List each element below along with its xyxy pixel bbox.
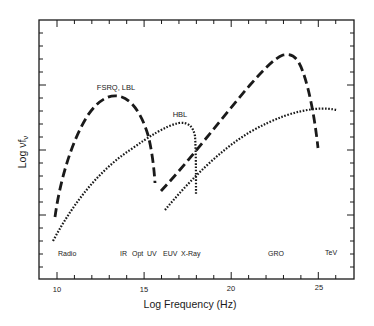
hbl-inverse-compton-curve <box>165 109 337 210</box>
band-label-radio: Radio <box>58 250 76 257</box>
hbl-synchrotron-curve <box>53 123 196 241</box>
band-label-xray: X-Ray <box>181 250 201 258</box>
y-axis-title: Log νfν <box>16 136 30 169</box>
band-label-tev: TeV <box>325 249 337 256</box>
x-tick-label-25: 25 <box>315 283 323 292</box>
y-axis-title-main: Log νf <box>16 140 28 169</box>
band-label-uv: UV <box>147 250 157 257</box>
y-axis-title-sub: ν <box>21 136 30 140</box>
fsrq-lbl-label: FSRQ, LBL <box>97 83 135 92</box>
band-label-euv: EUV <box>163 250 178 257</box>
svg-text:Log νfν: Log νfν <box>16 136 30 169</box>
x-axis-title: Log Frequency (Hz) <box>144 298 237 310</box>
band-label-ir: IR <box>120 250 127 257</box>
x-tick-label-20: 20 <box>227 284 235 293</box>
band-label-gro: GRO <box>268 250 285 257</box>
hbl-label: HBL <box>173 110 188 119</box>
x-tick-label-15: 15 <box>140 285 148 294</box>
sed-chart: FSRQ, LBL HBL Radio IR Opt UV EUV X-Ray … <box>0 0 374 326</box>
band-label-opt: Opt <box>132 250 143 258</box>
x-tick-label-10: 10 <box>53 285 61 294</box>
fsrq-lbl-inverse-compton-curve <box>161 55 318 191</box>
fsrq-lbl-synchrotron-curve <box>55 96 155 217</box>
